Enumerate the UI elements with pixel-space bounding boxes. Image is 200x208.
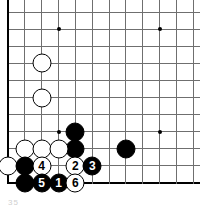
grid-line-vertical <box>109 0 110 184</box>
grid-line-horizontal <box>8 114 200 115</box>
star-point <box>158 27 162 31</box>
white-stone[interactable] <box>49 139 68 158</box>
move-stone-6[interactable]: 6 <box>66 174 85 193</box>
grid-line-horizontal <box>8 29 200 30</box>
black-stone[interactable] <box>116 139 135 158</box>
grid-line-vertical <box>142 0 143 184</box>
white-stone[interactable] <box>32 88 51 107</box>
star-point <box>57 27 61 31</box>
move-number-label: 6 <box>72 177 79 189</box>
star-point <box>57 130 61 134</box>
move-number-label: 4 <box>38 159 45 171</box>
grid-line-vertical <box>193 0 194 184</box>
grid-line-horizontal <box>8 80 200 81</box>
star-point <box>158 130 162 134</box>
grid-line-vertical <box>176 0 177 184</box>
move-number-label: 1 <box>55 177 62 189</box>
grid-line-horizontal <box>8 12 200 13</box>
move-stone-3[interactable]: 3 <box>83 156 102 175</box>
move-number-label: 3 <box>89 159 96 171</box>
white-stone[interactable] <box>32 54 51 73</box>
grid-line-horizontal <box>8 131 200 132</box>
go-board: 423516 35 <box>0 0 200 208</box>
grid-line-horizontal <box>8 46 200 47</box>
move-number-label: 2 <box>72 159 79 171</box>
move-number-label: 5 <box>38 177 45 189</box>
diagram-caption: 35 <box>8 198 19 208</box>
